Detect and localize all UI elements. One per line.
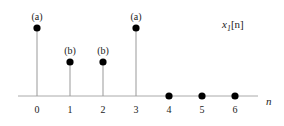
stem-marker	[165, 92, 172, 99]
stems-group	[33, 24, 238, 99]
value-annotation: (a)	[31, 11, 42, 23]
tick-label: 5	[200, 104, 205, 115]
stem-marker	[231, 92, 238, 99]
tick-label: 0	[35, 104, 40, 115]
tick-label: 4	[167, 104, 172, 115]
stem-marker	[33, 24, 40, 31]
signal-title: x1[n]	[221, 18, 244, 33]
stem-plot: 0123456 (a)(b)(b)(a) n x1[n]	[0, 0, 284, 126]
tick-label: 2	[101, 104, 106, 115]
value-annotation: (b)	[97, 45, 109, 57]
value-annotation: (b)	[64, 45, 76, 57]
tick-label: 6	[233, 104, 238, 115]
stem-marker	[132, 24, 139, 31]
stem-marker	[66, 58, 73, 65]
tick-labels-group: 0123456	[35, 104, 238, 115]
x-axis-label: n	[266, 95, 272, 107]
stem-marker	[99, 58, 106, 65]
value-annotation: (a)	[130, 11, 141, 23]
tick-label: 3	[134, 104, 139, 115]
stem-marker	[198, 92, 205, 99]
annotations-group: (a)(b)(b)(a)	[31, 11, 141, 57]
tick-label: 1	[68, 104, 73, 115]
